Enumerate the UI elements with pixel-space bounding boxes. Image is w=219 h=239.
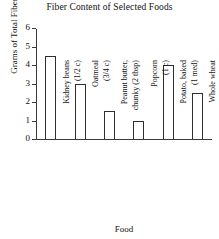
x-category-label-line1: Potato, baked	[179, 60, 190, 144]
y-axis-label: Grams of Total Fiber	[7, 0, 21, 92]
y-tick: 4	[36, 65, 37, 66]
x-category-label: Oatmeal(3/4 c)	[91, 60, 113, 144]
x-category-label: Whole wheatbread (1 slice)	[208, 60, 219, 144]
y-tick: 6	[36, 28, 37, 29]
x-category-label: Potato, baked(1 med)	[179, 60, 201, 144]
x-category-label-line1: Popcorn	[150, 60, 161, 144]
y-tick-mark	[32, 121, 36, 122]
x-category-label: Kidney beans(1/2 c)	[62, 60, 84, 144]
x-category-label-line1: Oatmeal	[91, 60, 102, 144]
y-tick: 2	[36, 102, 37, 103]
x-category-label: Peanut butter,chunky (2 tbsp)	[120, 60, 142, 144]
y-tick-mark	[32, 47, 36, 48]
y-tick-mark	[32, 84, 36, 85]
y-tick-mark	[32, 139, 36, 140]
y-tick-label: 4	[26, 59, 31, 69]
x-category-label-line1: Kidney beans	[62, 60, 73, 144]
y-tick-label: 1	[26, 115, 31, 125]
y-tick-mark	[32, 102, 36, 103]
bar-chart: Fiber Content of Selected Foods Grams of…	[0, 0, 219, 239]
y-tick: 5	[36, 47, 37, 48]
y-tick-label: 3	[26, 78, 31, 88]
x-category-label-line2: (3/4 c)	[102, 60, 113, 144]
x-category-label-line1: Whole wheat	[208, 60, 219, 144]
y-tick-mark	[32, 28, 36, 29]
x-category-label-line2: (1/2 c)	[72, 60, 83, 144]
y-tick-mark	[32, 65, 36, 66]
x-category-label: Popcorn(1 c)	[150, 60, 172, 144]
x-category-label-line1: Peanut butter,	[120, 60, 131, 144]
y-tick-label: 0	[26, 133, 31, 143]
y-tick-label: 2	[26, 96, 31, 106]
bar	[45, 56, 56, 139]
x-category-label-line2: chunky (2 tbsp)	[131, 60, 142, 144]
y-tick: 1	[36, 121, 37, 122]
y-tick: 0	[36, 139, 37, 140]
y-tick: 3	[36, 84, 37, 85]
x-axis-label: Food	[36, 224, 212, 234]
x-category-label-line2: (1 c)	[160, 60, 171, 144]
chart-title: Fiber Content of Selected Foods	[0, 2, 219, 12]
y-tick-label: 6	[26, 22, 31, 32]
y-tick-label: 5	[26, 41, 31, 51]
x-category-label-line2: (1 med)	[190, 60, 201, 144]
